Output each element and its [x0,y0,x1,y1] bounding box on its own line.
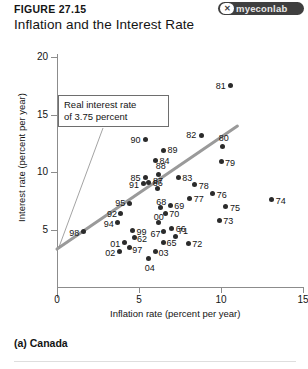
data-point-label-04: 04 [145,264,155,273]
data-point-label-65: 65 [167,239,177,248]
data-point-label-00: 00 [154,213,164,222]
data-point-label-73: 73 [223,217,233,226]
data-point-label-02: 02 [105,249,115,258]
data-point-label-88: 88 [156,162,166,171]
data-point-65 [161,240,166,245]
data-point-label-78: 78 [199,182,209,191]
myeconlab-mark-icon: ✕ [220,3,234,14]
data-point-label-80: 80 [219,134,229,143]
data-point-03 [153,249,158,254]
data-point-label-98: 98 [69,229,79,238]
data-point-label-89: 89 [168,146,178,155]
panel-caption: (a) Canada [14,337,68,349]
data-point-label-77: 77 [194,195,204,204]
data-point-82 [199,133,204,138]
data-point-label-95: 95 [115,199,125,208]
plot-overlay [0,44,308,296]
figure-number: FIGURE 27.15 [14,3,86,15]
data-point-02 [117,249,122,254]
data-point-label-74: 74 [276,197,286,206]
data-point-label-94: 94 [104,220,114,229]
data-point-label-91: 91 [129,181,139,190]
data-point-label-97: 97 [132,246,142,255]
myeconlab-logo-text: myeconlab [236,2,287,15]
callout-line-1: Real interest rate [64,99,164,111]
data-point-73 [217,218,222,223]
data-point-62 [132,235,137,240]
data-point-label-76: 76 [217,191,227,200]
data-point-label-90: 90 [131,136,141,145]
myeconlab-logo[interactable]: ✕ myeconlab [218,2,304,15]
data-point-label-68: 68 [156,198,166,207]
data-point-label-81: 81 [216,82,226,91]
data-point-89 [161,148,166,153]
data-point-label-79: 79 [225,159,235,168]
data-point-label-87: 87 [153,177,163,186]
figure-page: FIGURE 27.15 Inflation and the Interest … [0,0,308,369]
data-point-87 [155,186,160,191]
data-point-label-70: 70 [169,210,179,219]
data-point-label-75: 75 [230,204,240,213]
data-point-95 [127,201,132,206]
data-point-label-83: 83 [182,174,192,183]
data-point-72 [186,241,191,246]
x-axis-title: Inflation rate (percent per year) [110,308,240,319]
figure-title: Inflation and the Interest Rate [14,17,194,32]
data-point-79 [219,159,224,164]
data-point-label-62: 62 [137,235,147,244]
data-point-69 [168,203,173,208]
real-interest-rate-callout: Real interest rate of 3.75 percent [58,95,169,127]
data-point-label-71: 71 [178,227,188,236]
data-point-label-82: 82 [186,131,196,140]
data-point-label-67: 67 [151,230,161,239]
data-point-label-03: 03 [158,249,168,258]
data-point-label-72: 72 [192,240,202,249]
data-point-01 [122,240,127,245]
scatter-plot: 5101520 051015 Interest rate (percent pe… [0,44,308,296]
callout-line-2: of 3.75 percent [64,111,164,123]
footer-divider [14,361,296,362]
